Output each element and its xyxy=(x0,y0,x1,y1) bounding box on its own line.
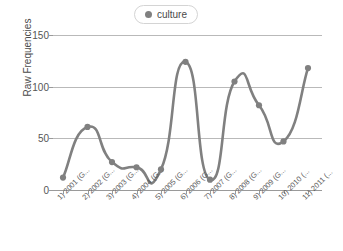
data-point[interactable] xyxy=(280,138,286,144)
data-point[interactable] xyxy=(60,175,66,181)
data-point[interactable] xyxy=(256,102,262,108)
circle-marker-icon xyxy=(145,11,152,18)
line-chart: culture Raw Frequencies 150 100 50 0 1) … xyxy=(0,0,343,251)
legend-entry-label: culture xyxy=(157,10,187,20)
data-point[interactable] xyxy=(84,124,90,130)
series-line-culture xyxy=(63,62,308,184)
data-point[interactable] xyxy=(182,59,188,65)
data-point[interactable] xyxy=(231,78,237,84)
y-tick-label-0: 0 xyxy=(3,186,49,196)
data-point[interactable] xyxy=(109,159,115,165)
y-tick-label-150: 150 xyxy=(3,31,49,41)
y-axis-ticks: 150 100 50 0 xyxy=(0,0,49,251)
y-tick-label-100: 100 xyxy=(3,83,49,93)
chart-legend[interactable]: culture xyxy=(134,5,198,24)
data-point[interactable] xyxy=(305,65,311,71)
y-tick-label-50: 50 xyxy=(3,134,49,144)
